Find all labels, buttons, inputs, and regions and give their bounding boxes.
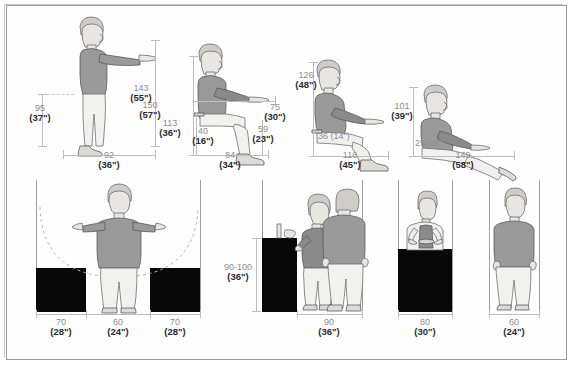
dim-right-side-clearance: 70 (28") <box>153 317 197 337</box>
panel-work-right-edge <box>452 180 453 311</box>
guide-seated-reach-top <box>189 56 198 57</box>
figure-tpose <box>73 182 165 312</box>
guide-reclined-height-top <box>309 62 318 63</box>
guide-seated-depth-right <box>268 150 269 159</box>
guide-single-width <box>489 314 539 315</box>
guide-work-width <box>398 314 452 315</box>
guide-standing-reach-tick-top <box>151 40 160 41</box>
dim-reclined-seat-height: 36 (14") <box>318 131 350 141</box>
dim-standing-hip-height: 95 (37") <box>18 103 62 123</box>
counter-block <box>262 238 297 312</box>
dim-standing-depth: 92 (36") <box>87 150 131 170</box>
guide-single-right <box>539 310 540 318</box>
guide-reach-widths <box>36 314 200 315</box>
figure-worker <box>406 190 446 252</box>
dim-left-side-clearance: 70 (28") <box>39 317 83 337</box>
figure-standing-front <box>492 186 538 312</box>
dim-counter-height: 90-100 (36") <box>212 262 264 282</box>
guide-reach-w3 <box>150 310 151 318</box>
guide-work-left <box>398 310 399 318</box>
dim-passage-width: 90 (36") <box>307 317 351 337</box>
dim-seated-depth: 84 (34") <box>208 150 252 170</box>
guide-standing-reach-tick-bottom <box>151 146 160 147</box>
guide-reach-w4 <box>200 310 201 318</box>
panel-single-left-edge <box>489 180 490 311</box>
figure-passerby <box>322 186 370 314</box>
dim-reclined-height: 126 (48") <box>284 70 328 90</box>
guide-passage-width <box>297 314 362 315</box>
guide-work-right <box>452 310 453 318</box>
dim-body-width: 60 (24") <box>96 317 140 337</box>
dim-standing-reach-height: 150 (57") <box>128 100 172 120</box>
guide-reach-w2 <box>86 310 87 318</box>
dim-reclined-depth: 116 (45") <box>328 150 372 170</box>
dim-lounge-height: 101 (39") <box>380 101 424 121</box>
guide-standing-depth-left <box>63 150 64 159</box>
guide-passage-left <box>297 310 298 318</box>
guide-lounge-depth-right <box>514 151 515 160</box>
dim-seat-height: 40 (16") <box>186 126 220 146</box>
dim-seat-front-clearance: 59 (23") <box>244 124 282 144</box>
guide-standing-hip-tick-bottom <box>38 146 47 147</box>
guide-passage-right <box>362 310 363 318</box>
dim-minimum-width: 60 (24") <box>492 317 536 337</box>
guide-reach-w1 <box>36 310 37 318</box>
guide-lounge-height-top <box>409 87 418 88</box>
dim-lounge-seat-height: 25(10") <box>415 138 444 148</box>
dim-work-station-width: 80 (30") <box>403 317 447 337</box>
guide-single-left <box>489 310 490 318</box>
dim-seated-eye-height: 113 (36") <box>150 118 190 138</box>
dim-lounge-depth: 149 (58") <box>441 150 485 170</box>
guide-counter-height-bottom <box>252 311 261 312</box>
guide-standing-depth-right <box>155 150 156 159</box>
dim-seat-back-to-hand: 75 (30") <box>255 102 295 122</box>
panel-single-right-edge <box>539 180 540 311</box>
guide-standing-hip-ref <box>42 94 74 95</box>
work-counter-block <box>398 249 452 312</box>
diagram-sheet: 95 (37") 150 (57") 92 (36") 143 <box>0 0 573 366</box>
guide-counter-height-top <box>252 238 261 239</box>
guide-lounge-height <box>413 87 414 156</box>
guide-reclined-depth-right <box>388 151 389 160</box>
dim-seated-reach-height: 143 (55") <box>118 83 164 103</box>
